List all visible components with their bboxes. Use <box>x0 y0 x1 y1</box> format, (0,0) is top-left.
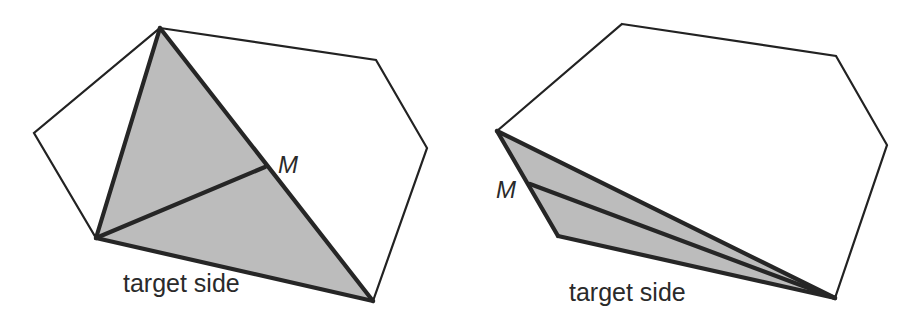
right-panel: M target side <box>496 24 887 306</box>
right-target-side-label: target side <box>569 278 686 306</box>
left-midpoint-label: M <box>278 151 298 178</box>
right-midpoint-label: M <box>496 176 516 203</box>
diagram-canvas: M target side M target side <box>0 0 917 327</box>
left-panel: M target side <box>34 28 427 301</box>
left-target-side-label: target side <box>123 269 240 297</box>
